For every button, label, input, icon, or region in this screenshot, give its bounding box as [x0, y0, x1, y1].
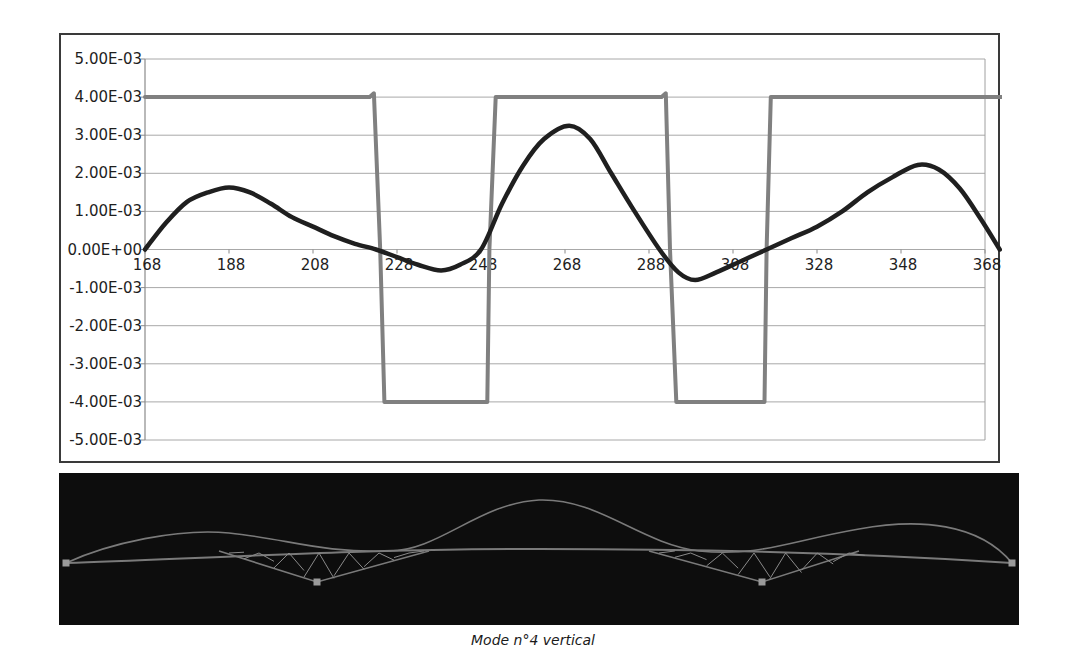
x-tick-label: 168: [133, 256, 162, 274]
bridge-deformation-diagram: [59, 473, 1019, 625]
y-tick-label: 5.00E-03: [75, 50, 142, 68]
deck-line: [66, 549, 1012, 563]
figure-caption: Mode n°4 vertical: [0, 632, 1066, 648]
x-tick-label: 348: [889, 256, 918, 274]
x-tick-label: 368: [973, 256, 1002, 274]
x-tick-label: 288: [637, 256, 666, 274]
series-line-sign-indicator: [145, 93, 1002, 402]
line-chart: 5.00E-034.00E-033.00E-032.00E-031.00E-03…: [61, 35, 1002, 465]
truss-diagonals: [659, 551, 865, 579]
data-series: [145, 93, 1002, 402]
mode-shape-view: [59, 473, 1019, 625]
y-tick-label: 0.00E+00: [67, 241, 142, 259]
support-pier-1: [314, 579, 321, 586]
y-tick-label: -5.00E-03: [69, 431, 142, 449]
x-tick-label: 208: [301, 256, 330, 274]
y-tick-label: -2.00E-03: [69, 317, 142, 335]
y-tick-label: -3.00E-03: [69, 355, 142, 373]
support-left-abutment: [63, 560, 70, 567]
y-axis-labels: 5.00E-034.00E-033.00E-032.00E-031.00E-03…: [67, 50, 142, 449]
y-tick-label: 3.00E-03: [75, 126, 142, 144]
y-tick-label: -4.00E-03: [69, 393, 142, 411]
x-tick-label: 268: [553, 256, 582, 274]
x-tick-label: 328: [805, 256, 834, 274]
y-tick-label: 2.00E-03: [75, 164, 142, 182]
y-tick-label: 1.00E-03: [75, 202, 142, 220]
chart-frame: 5.00E-034.00E-033.00E-032.00E-031.00E-03…: [59, 33, 1000, 463]
x-axis-labels: 168188208228248268288308328348368: [133, 256, 1002, 274]
y-tick-label: -1.00E-03: [69, 279, 142, 297]
deformed-shape-line: [66, 500, 1012, 563]
x-tick-label: 188: [217, 256, 246, 274]
y-tick-label: 4.00E-03: [75, 88, 142, 106]
support-pier-2: [759, 579, 766, 586]
support-right-abutment: [1009, 560, 1016, 567]
